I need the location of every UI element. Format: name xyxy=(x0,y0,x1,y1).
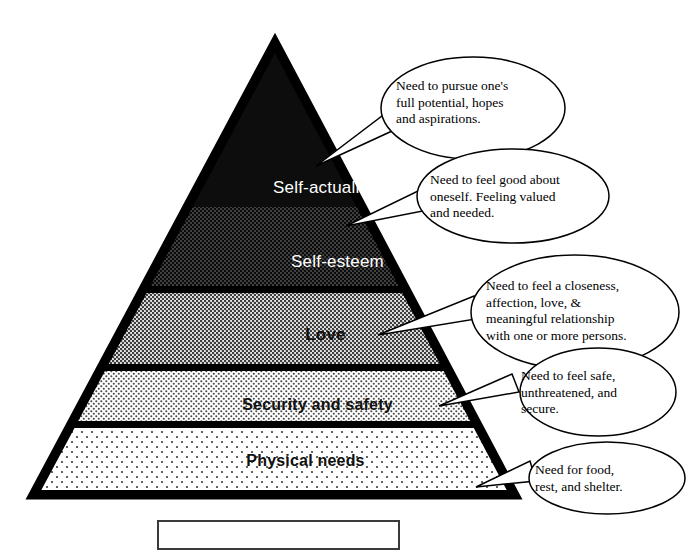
callout-text-self-actualization: Need to pursue one's full potential, hop… xyxy=(396,78,566,128)
callout-text-security-and-safety: Need to feel safe, unthreatened, and sec… xyxy=(521,368,681,418)
pyramid-label-self-esteem: Self-esteem xyxy=(0,252,683,272)
callout-text-self-esteem: Need to feel good about oneself. Feeling… xyxy=(430,172,610,222)
caption-box xyxy=(157,520,400,550)
callout-text-physical-needs: Need for food, rest, and shelter. xyxy=(535,462,685,495)
callout-text-love: Need to feel a closeness, affection, lov… xyxy=(486,278,686,344)
